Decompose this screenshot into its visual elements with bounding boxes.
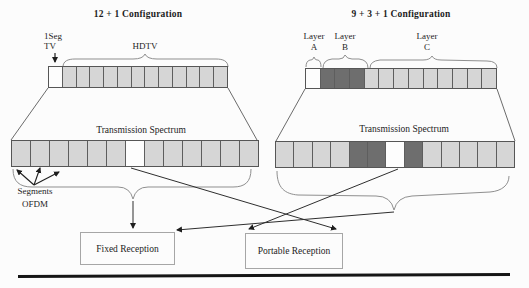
left-title: 12 + 1 Configuration [38,9,238,19]
segment-light [159,67,173,87]
segment-light [164,141,183,166]
segment-white [126,141,145,166]
segment-dark [350,69,365,88]
segment-light [442,142,460,167]
segment-light [77,67,91,87]
right-transmission-label: Transmission Spectrum [324,124,484,134]
segment-dark [335,69,350,88]
segments-ofdm-label: Segments OFDM [6,185,64,211]
segment-light [107,141,126,166]
segment-light [214,67,227,87]
segment-light [118,67,132,87]
segment-light [294,142,312,167]
layer-c-word: Layer [407,31,447,42]
segment-dark [368,142,386,167]
segment-light [468,69,483,88]
segment-light [173,67,187,87]
left-spectrum-bar [11,140,259,167]
isdb-configuration-diagram: 12 + 1 Configuration 1Seg TV HDTV Transm… [0,0,529,288]
segment-light [379,69,394,88]
segment-light [482,69,496,88]
segment-light [145,141,164,166]
right-trapezoid-left-edge [276,89,305,141]
segment-light [240,141,258,166]
right-trapezoid-right-edge [497,89,515,141]
segment-white [386,142,404,167]
fixed-reception-label: Fixed Reception [96,244,159,254]
segment-light [145,67,159,87]
layer-c-brace [370,56,497,68]
segment-dark [321,69,336,88]
segment-light [424,69,439,88]
segment-light [69,141,88,166]
segment-light [63,67,77,87]
layer-c-letter: C [407,42,447,53]
segment-light [104,67,118,87]
segment-light [200,67,214,87]
fixed-reception-box: Fixed Reception [80,232,175,265]
portable-reception-label: Portable Reception [258,246,331,256]
segment-light [132,67,146,87]
segment-light [90,67,104,87]
segment-light [460,142,478,167]
ofdm-arrow-1 [17,170,34,185]
segments-label-line2: OFDM [6,198,64,211]
segment-light [50,141,69,166]
portable-reception-box: Portable Reception [245,233,343,269]
segment-light [31,141,50,166]
segment-light [497,142,514,167]
layer-b-word: Layer [325,31,365,42]
layer-b-letter: B [325,42,365,53]
segment-light [365,69,380,88]
segment-light [221,141,240,166]
left-trapezoid-left-edge [11,88,48,140]
segment-light [12,141,31,166]
oneseg-label: 1Seg TV [44,31,62,51]
left-segment-bar [48,66,228,88]
oneseg-label-line1: 1Seg [44,31,62,41]
segment-light [394,69,409,88]
left-trapezoid-right-edge [228,88,257,140]
segment-light [423,142,441,167]
right-title: 9 + 3 + 1 Configuration [301,9,501,19]
segment-light [202,141,221,166]
segment-light [187,67,201,87]
right-segment-bar [305,68,497,89]
hdtv-label: HDTV [115,41,175,52]
layer-b-brace [323,55,368,68]
segment-light [453,69,468,88]
segment-light [88,141,107,166]
segment-light [409,69,424,88]
segment-light [331,142,349,167]
right-spectrum-bar [275,141,515,168]
right-oneseg-to-portable-arrow [249,169,398,229]
segment-white [306,69,321,88]
segments-label-line1: Segments [6,185,64,198]
layer-c-label: Layer C [407,31,447,53]
oneseg-label-line2: TV [44,41,62,51]
segment-white [49,67,63,87]
segment-light [183,141,202,166]
segment-light [478,142,496,167]
segment-light [438,69,453,88]
layer-b-label: Layer B [325,31,365,53]
segment-dark [350,142,368,167]
left-transmission-label: Transmission Spectrum [61,125,221,135]
left-oneseg-to-portable-arrow [131,168,336,229]
segment-light [313,142,331,167]
segment-dark [405,142,423,167]
segment-light [276,142,294,167]
layer-a-brace [306,57,321,67]
